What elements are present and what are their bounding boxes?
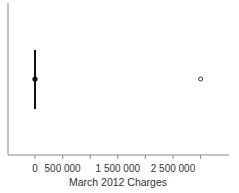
x-ticks	[35, 155, 201, 159]
chart: 0500 0001 500 0002 500 000 March 2012 Ch…	[0, 0, 239, 193]
x-tick-labels: 0500 0001 500 0002 500 000	[32, 163, 195, 174]
outlier-point	[199, 77, 203, 81]
x-tick-label: 500 000	[45, 163, 82, 174]
x-tick-label: 0	[32, 163, 38, 174]
x-tick-label: 2 500 000	[151, 163, 196, 174]
median-point	[32, 76, 37, 81]
x-tick-label: 1 500 000	[96, 163, 141, 174]
x-axis-title: March 2012 Charges	[69, 176, 167, 188]
plot-marks	[32, 50, 202, 109]
